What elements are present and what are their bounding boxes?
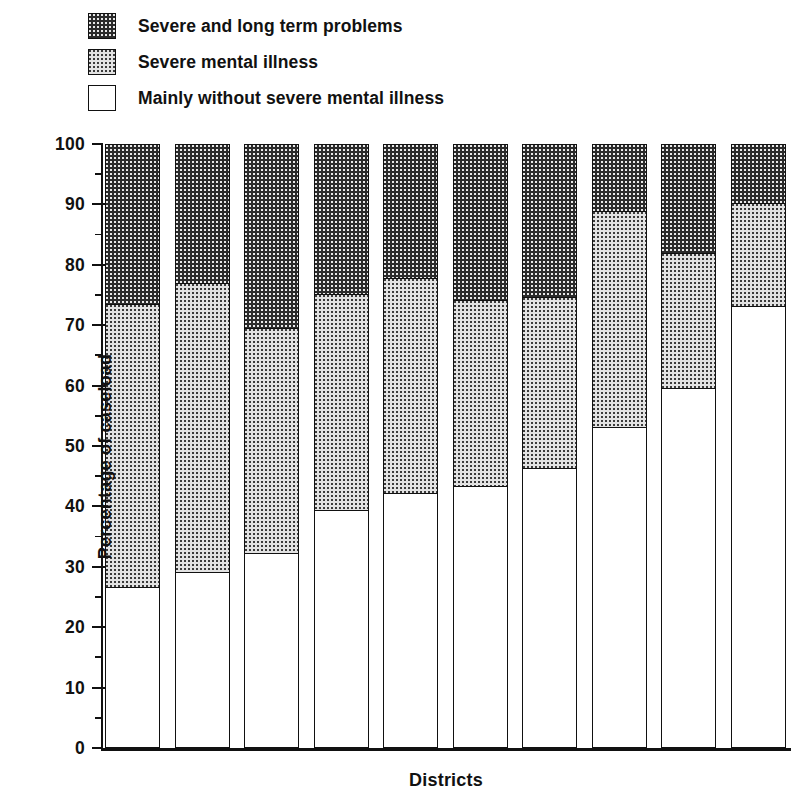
bar-segment[interactable] [522, 468, 577, 748]
x-axis-title: Districts [101, 770, 791, 791]
legend-swatch-white-icon [88, 85, 116, 111]
bar-segment[interactable] [244, 328, 299, 553]
bar-stack[interactable] [522, 144, 577, 748]
bar-segment[interactable] [592, 427, 647, 748]
bar-stack[interactable] [314, 144, 369, 748]
bar-segment[interactable] [314, 510, 369, 748]
chart-figure: Severe and long term problems Severe men… [0, 0, 807, 802]
bar-stack[interactable] [661, 144, 716, 748]
y-axis-tick-label: 60 [23, 375, 85, 396]
y-axis-minor-tick [95, 234, 103, 236]
legend-item-label: Mainly without severe mental illness [138, 88, 444, 109]
y-axis-tick-label: 40 [23, 496, 85, 517]
bar-segment[interactable] [661, 144, 716, 253]
legend-swatch-grey-dotted-icon [88, 49, 116, 75]
chart-legend: Severe and long term problems Severe men… [88, 8, 608, 116]
bar-segment[interactable] [661, 388, 716, 748]
bar-stack[interactable] [453, 144, 508, 748]
bar-segment[interactable] [731, 306, 786, 748]
bar-stack[interactable] [592, 144, 647, 748]
bar-segment[interactable] [244, 144, 299, 328]
legend-item: Mainly without severe mental illness [88, 80, 608, 116]
y-axis-tick-label: 0 [23, 738, 85, 759]
bar-segment[interactable] [314, 294, 369, 510]
legend-item: Severe and long term problems [88, 8, 608, 44]
bar-segment[interactable] [592, 144, 647, 211]
bar-stack[interactable] [731, 144, 786, 748]
bar-segment[interactable] [453, 144, 508, 300]
y-axis-tick-label: 20 [23, 617, 85, 638]
y-axis-tick-label: 70 [23, 315, 85, 336]
legend-item-label: Severe and long term problems [138, 16, 403, 37]
y-axis-tick-label: 80 [23, 254, 85, 275]
y-axis-title: Percentage of caseload [95, 257, 116, 657]
bar-segment[interactable] [383, 493, 438, 748]
bar-segment[interactable] [175, 283, 230, 572]
bar-segment[interactable] [175, 144, 230, 283]
bar-segment[interactable] [383, 144, 438, 278]
y-axis-major-tick [92, 687, 103, 689]
y-axis-tick-label: 100 [23, 134, 85, 155]
bar-segment[interactable] [731, 144, 786, 203]
bar-segment[interactable] [522, 297, 577, 468]
y-axis-tick-label: 90 [23, 194, 85, 215]
bar-stack[interactable] [383, 144, 438, 748]
bar-segment[interactable] [383, 278, 438, 493]
y-axis-major-tick [92, 143, 103, 145]
y-axis-tick-label: 30 [23, 556, 85, 577]
bar-stack[interactable] [175, 144, 230, 748]
y-axis-tick-label: 50 [23, 436, 85, 457]
y-axis-minor-tick [95, 656, 103, 658]
bar-segment[interactable] [244, 553, 299, 748]
y-axis-tick-label: 10 [23, 677, 85, 698]
y-axis-major-tick [92, 203, 103, 205]
bar-segment[interactable] [731, 203, 786, 306]
bar-segment[interactable] [453, 300, 508, 486]
bar-stack[interactable] [244, 144, 299, 748]
legend-swatch-dark-dotted-icon [88, 13, 116, 39]
bar-segment[interactable] [175, 572, 230, 748]
y-axis-minor-tick [95, 173, 103, 175]
bar-segment[interactable] [453, 486, 508, 748]
bar-segment[interactable] [592, 211, 647, 427]
y-axis-minor-tick [95, 717, 103, 719]
bar-segment[interactable] [314, 144, 369, 294]
legend-item: Severe mental illness [88, 44, 608, 80]
bar-segment[interactable] [522, 144, 577, 297]
legend-item-label: Severe mental illness [138, 52, 318, 73]
plot-area: 0102030405060708090100 Percentage of cas… [101, 144, 791, 748]
x-axis-line [101, 748, 791, 751]
y-axis-major-tick [92, 747, 103, 749]
bar-segment[interactable] [661, 253, 716, 388]
